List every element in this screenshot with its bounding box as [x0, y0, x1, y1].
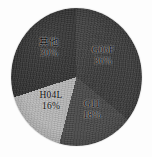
pie-disc — [11, 8, 142, 146]
pie-slice-percent-g11: 18% — [70, 111, 114, 121]
pie-slices — [11, 8, 142, 146]
pie-slice-label-g11: G11 18% — [70, 100, 114, 121]
pie-slice-label-h04l: H04L 16% — [28, 91, 74, 112]
pie-slice-label-g06f: G06F 36% — [80, 46, 126, 67]
pie-slice-percent-g06f: 36% — [80, 57, 126, 67]
pie-slice-label-other: 其他 30% — [26, 38, 72, 59]
pie-slice-percent-h04l: 16% — [28, 102, 74, 112]
pie-chart — [11, 8, 142, 146]
pie-chart-figure: 其他 30% G06F 36% H04L 16% G11 18% — [0, 0, 152, 157]
pie-slice-percent-other: 30% — [26, 49, 72, 59]
pie-slice-name-g06f: G06F — [80, 46, 126, 56]
pie-slice-name-g11: G11 — [70, 100, 114, 110]
pie-slice-name-other: 其他 — [26, 38, 72, 48]
pie-slice-name-h04l: H04L — [28, 91, 74, 101]
